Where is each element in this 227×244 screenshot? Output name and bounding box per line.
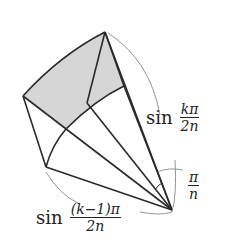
sin-func: sin bbox=[146, 107, 173, 128]
denominator: n bbox=[189, 186, 198, 201]
angle-mark-inner bbox=[155, 183, 162, 190]
fraction: (k−1)π 2n bbox=[70, 202, 121, 233]
sin-func: sin bbox=[36, 207, 63, 228]
denominator: 2n bbox=[181, 118, 199, 133]
numerator: π bbox=[188, 170, 199, 186]
label-pi-over-n: π n bbox=[188, 170, 199, 201]
numerator: kπ bbox=[180, 102, 200, 118]
label-sin-k-pi-over-2n: sin kπ 2n bbox=[146, 102, 199, 133]
angle-mark-outer bbox=[158, 169, 183, 172]
fraction: kπ 2n bbox=[180, 102, 200, 133]
fraction: π n bbox=[188, 170, 199, 201]
label-sin-k-minus-1-pi-over-2n: sin (k−1)π 2n bbox=[36, 202, 121, 233]
denominator: 2n bbox=[86, 218, 104, 233]
numerator: (k−1)π bbox=[70, 202, 121, 218]
